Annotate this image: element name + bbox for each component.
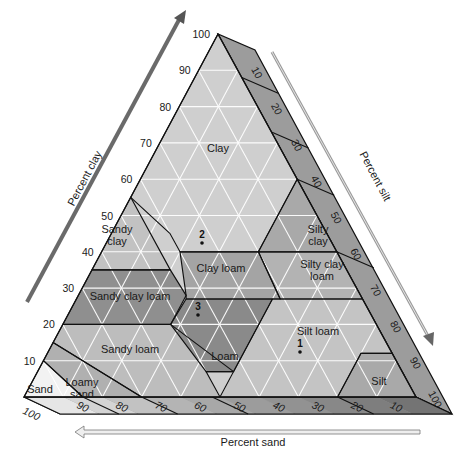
clay-tick-label: 50	[101, 210, 113, 222]
clay-tick-label: 90	[179, 64, 191, 76]
label-sandy-loam: Sandy loam	[101, 343, 159, 355]
soil-texture-triangle: 1020304050607080901001020304050607080901…	[0, 0, 475, 456]
sand-tick-label: 100	[21, 404, 42, 422]
clay-tick-label: 60	[121, 173, 133, 185]
label-sandy-clay-loam: Sandy clay loam	[90, 290, 171, 302]
sample-point-2	[200, 241, 204, 245]
sample-point-label: 2	[199, 229, 205, 240]
clay-tick-label: 40	[82, 246, 94, 258]
sample-point-label: 1	[297, 338, 303, 349]
silt-axis-label: Percent silt	[357, 149, 393, 203]
clay-tick-label: 100	[192, 28, 210, 40]
label-clay-loam: Clay loam	[197, 262, 246, 274]
clay-tick-label: 10	[24, 355, 36, 367]
label-silt-loam: Silt loam	[297, 325, 339, 337]
sample-point-3	[196, 313, 200, 317]
label-loam: Loam	[211, 350, 239, 362]
sample-point-label: 3	[195, 301, 201, 312]
clay-tick-label: 70	[140, 137, 152, 149]
label-sand: Sand	[27, 383, 53, 395]
clay-tick-label: 20	[43, 318, 55, 330]
clay-tick-label: 80	[160, 101, 172, 113]
sample-point-1	[298, 350, 302, 354]
label-silt: Silt	[371, 375, 386, 387]
label-clay: Clay	[207, 142, 230, 154]
label-silty-clay: Siltyclay	[308, 223, 329, 247]
triangle-chart: 1020304050607080901001020304050607080901…	[0, 0, 475, 456]
sand-axis-label: Percent sand	[221, 436, 286, 448]
clay-tick-label: 30	[63, 282, 75, 294]
